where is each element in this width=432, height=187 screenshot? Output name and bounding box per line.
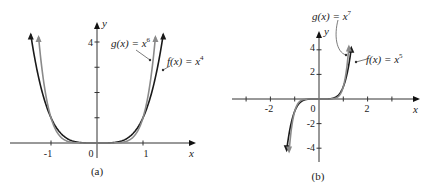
annotation-pointer [355, 61, 357, 63]
y-tick-label-neg2-b: -2 [307, 119, 315, 129]
y-axis-arrow-icon [316, 31, 322, 38]
f-func-text: f(x) = x [366, 53, 399, 65]
annotation-leader [336, 20, 346, 55]
x-tick-label-0-b: 0 [311, 104, 316, 114]
y-axis-arrow-icon [94, 22, 100, 29]
x-axis-arrow-icon [413, 96, 420, 102]
x-tick-label-0-a: 0 [89, 149, 94, 159]
x-tick-label-1-a: 1 [144, 149, 149, 159]
g-exponent: 6 [147, 36, 151, 44]
y-tick-label-4-a: 4 [88, 38, 93, 48]
legend-label-g-a: g(x) = x6 [111, 37, 150, 49]
plot-area-a [0, 0, 216, 187]
legend-label-f-b: f(x) = x5 [366, 53, 403, 65]
annotation-leader [136, 50, 150, 60]
curve-end-arrow-icon [28, 32, 34, 39]
curve-end-arrow-icon [160, 32, 166, 39]
f-exponent: 5 [399, 52, 403, 60]
legend-label-g-b: g(x) = x7 [312, 10, 351, 22]
f-exponent: 4 [200, 54, 204, 62]
annotation-pointer [149, 59, 151, 61]
x-tick-label-2-b: 2 [365, 104, 370, 114]
legend-label-f-a: f(x) = x4 [167, 55, 204, 67]
annotation-pointer [162, 69, 164, 71]
caption-b: (b) [312, 171, 325, 182]
curve-end-arrow-icon [152, 35, 158, 42]
y-tick-label-neg4-b: -4 [307, 143, 315, 153]
g-func-text: g(x) = x [111, 37, 147, 49]
x-axis-label-b: x [413, 104, 418, 115]
chart-panel-a: y x 4 -1 0 1 g(x) = x6 f(x) = x4 (a) [0, 0, 216, 187]
caption-a: (a) [91, 166, 103, 177]
x-axis-label-a: x [189, 148, 194, 159]
annotation-pointer [345, 54, 347, 56]
y-tick-label-4-b: 4 [310, 43, 315, 53]
g-func-text: g(x) = x [312, 10, 348, 22]
x-tick-label-neg2-b: -2 [265, 104, 273, 114]
y-axis-label-a: y [102, 18, 107, 29]
x-tick-label-neg1-a: -1 [44, 149, 52, 159]
f-func-text: f(x) = x [167, 55, 200, 67]
x-axis-arrow-icon [189, 140, 196, 146]
curve-end-arrow-icon [36, 35, 42, 42]
chart-panel-b: y x 4 2 -2 -4 -2 0 2 g(x) = x7 f(x) = x5… [216, 0, 432, 187]
y-axis-label-b: y [324, 26, 329, 37]
y-tick-label-2-b: 2 [310, 67, 315, 77]
g-exponent: 7 [348, 9, 352, 17]
